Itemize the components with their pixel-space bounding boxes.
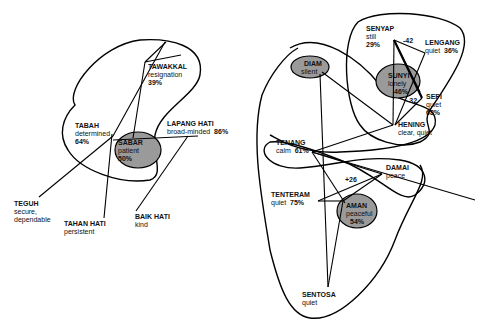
- gloss: persistent: [64, 228, 106, 236]
- pct: 50%: [118, 155, 143, 163]
- node-label-lengang: LENGANG quiet 36%: [425, 39, 460, 55]
- edge-aman-sentosa: [328, 201, 343, 287]
- gloss: quiet 75%: [271, 199, 310, 207]
- gloss: lonely: [388, 80, 409, 88]
- term: TENANG: [276, 139, 309, 147]
- term: LAPANG HATI: [167, 120, 228, 128]
- term: AMAN: [346, 202, 372, 210]
- term: SENYAP: [366, 25, 394, 33]
- gloss: peace: [386, 172, 409, 180]
- term: TAHAN HATI: [64, 220, 106, 228]
- node-label-baik-hati: BAIK HATI kind: [135, 213, 170, 229]
- node-label-hening: HENING clear, quiet: [398, 121, 432, 137]
- node-label-tabah: TABAH determined 64%: [75, 122, 110, 146]
- term: SABAR: [118, 139, 143, 147]
- node-label-teguh: TEGUH secure, dependable: [14, 200, 51, 224]
- right-cluster: [257, 13, 475, 318]
- pct: 46%: [388, 88, 409, 96]
- pct: 29%: [366, 41, 394, 49]
- gloss: peaceful: [346, 210, 372, 218]
- edge-weight-tenteram-damai: +26: [345, 176, 357, 183]
- gloss: still: [366, 33, 394, 41]
- edge-diam-sentosa: [320, 74, 328, 287]
- term: TENTERAM: [271, 191, 310, 199]
- gloss: determined: [75, 130, 110, 138]
- node-label-tahan-hati: TAHAN HATI persistent: [64, 220, 106, 236]
- term: SENTOSA: [302, 291, 336, 299]
- node-label-sepi: SEPI quiet 68%: [426, 93, 442, 117]
- pct: 39%: [148, 79, 187, 87]
- term: TAWAKKAL: [148, 63, 187, 71]
- term: TABAH: [75, 122, 110, 130]
- gloss: silent: [301, 68, 322, 76]
- gloss: broad-minded 86%: [167, 128, 228, 136]
- edge-weight-senyap-lengang: -42: [403, 37, 413, 44]
- term: SEPI: [426, 93, 442, 101]
- edge-tawakkal-right: [145, 55, 181, 62]
- node-label-diam: DIAM silent: [301, 60, 322, 76]
- gloss: quiet: [302, 299, 336, 307]
- term: LENGANG: [425, 39, 460, 47]
- node-label-senyap: SENYAP still 29%: [366, 25, 394, 49]
- node-label-sabar: SABAR patient 50%: [118, 139, 143, 163]
- term: DAMAI: [386, 164, 409, 172]
- node-label-tawakkal: TAWAKKAL resignation 39%: [148, 63, 187, 87]
- gloss: kind: [135, 221, 170, 229]
- gloss: calm 61%: [276, 147, 309, 155]
- gloss: clear, quiet: [398, 129, 432, 137]
- pct: 64%: [75, 138, 110, 146]
- edge-tawakkal-sabar: [133, 62, 145, 138]
- term: SUNYI: [388, 72, 409, 80]
- edge-tenang-hening: [312, 125, 393, 152]
- gloss: patient: [118, 147, 143, 155]
- node-label-damai: DAMAI peace: [386, 164, 409, 180]
- edge-weight-sepi: -32: [407, 97, 417, 104]
- pct: 54%: [346, 218, 372, 226]
- gloss: quiet: [426, 101, 442, 109]
- semantic-network-diagram: [0, 0, 490, 330]
- edge-tabah-top: [113, 42, 165, 136]
- node-label-sunyi: SUNYI lonely 46%: [388, 72, 409, 96]
- node-label-tenang: TENANG calm 61%: [276, 139, 309, 155]
- term: BAIK HATI: [135, 213, 170, 221]
- node-label-tenteram: TENTERAM quiet 75%: [271, 191, 310, 207]
- node-label-aman: AMAN peaceful 54%: [346, 202, 372, 226]
- pct: 68%: [426, 109, 442, 117]
- gloss2: dependable: [14, 216, 51, 224]
- term: HENING: [398, 121, 432, 129]
- gloss: secure,: [14, 208, 51, 216]
- node-label-lapang-hati: LAPANG HATI broad-minded 86%: [167, 120, 228, 136]
- term: TEGUH: [14, 200, 51, 208]
- node-label-sentosa: SENTOSA quiet: [302, 291, 336, 307]
- term: DIAM: [301, 60, 322, 68]
- gloss: quiet 36%: [425, 47, 460, 55]
- gloss: resignation: [148, 71, 187, 79]
